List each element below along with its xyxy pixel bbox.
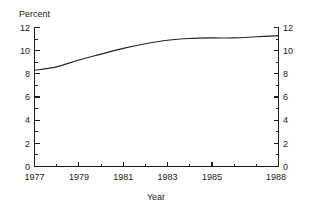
y-axis-right-tick-label: 2 bbox=[283, 139, 288, 149]
x-axis-tick-label: 1983 bbox=[158, 172, 178, 182]
y-axis-left-tick-label: 8 bbox=[25, 69, 30, 79]
y-axis-title: Percent bbox=[19, 9, 51, 19]
chart-background bbox=[0, 0, 309, 214]
y-axis-left-tick-label: 4 bbox=[25, 115, 30, 125]
chart-figure: Percent 0 2 bbox=[0, 0, 309, 214]
x-axis-tick-label: 1981 bbox=[113, 172, 133, 182]
y-axis-right-tick-label: 6 bbox=[283, 92, 288, 102]
x-axis-tick-label: 1979 bbox=[69, 172, 89, 182]
y-axis-left-tick-label: 10 bbox=[20, 46, 30, 56]
y-axis-right-tick-label: 12 bbox=[283, 23, 293, 33]
y-axis-left-tick-label: 6 bbox=[25, 92, 30, 102]
y-axis-right-tick-label: 10 bbox=[283, 46, 293, 56]
y-axis-left-tick-label: 12 bbox=[20, 23, 30, 33]
x-axis-tick-label: 1988 bbox=[266, 172, 286, 182]
x-axis-title: Year bbox=[147, 192, 165, 202]
y-axis-right-tick-label: 4 bbox=[283, 115, 288, 125]
y-axis-right-tick-label: 8 bbox=[283, 69, 288, 79]
x-axis-tick-label: 1977 bbox=[24, 172, 44, 182]
line-chart: Percent 0 2 bbox=[0, 0, 309, 214]
y-axis-left-tick-label: 2 bbox=[25, 139, 30, 149]
y-axis-left-tick-label: 0 bbox=[25, 162, 30, 172]
x-axis-tick-label: 1985 bbox=[202, 172, 222, 182]
y-axis-right-tick-label: 0 bbox=[283, 162, 288, 172]
